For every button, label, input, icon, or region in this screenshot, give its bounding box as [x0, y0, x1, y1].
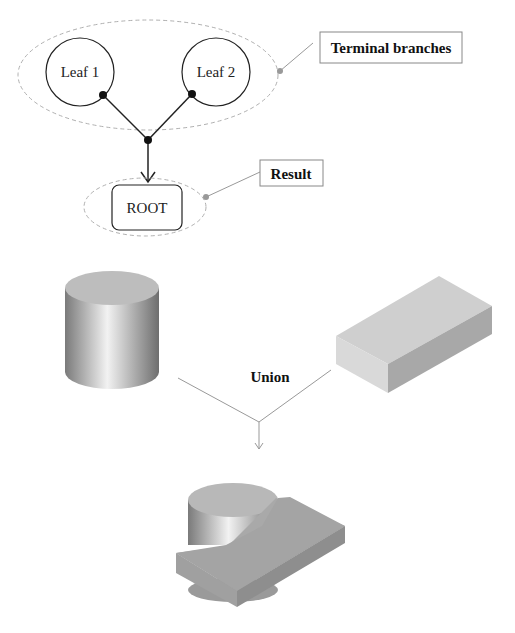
- result-callout-dot: [203, 194, 209, 200]
- result-callout-line: [206, 172, 260, 197]
- csg-diagram: Leaf 1 Leaf 2 ROOT Terminal branches Res…: [0, 0, 515, 633]
- union-label: Union: [250, 369, 290, 385]
- cylinder-solid: [65, 271, 159, 389]
- terminal-branches-callout: Terminal branches: [320, 32, 462, 63]
- root-label: ROOT: [127, 200, 168, 216]
- leaf-1-connector-dot: [99, 91, 107, 99]
- result-callout: Result: [260, 160, 323, 186]
- root-node[interactable]: ROOT: [112, 185, 182, 230]
- union-result-solid: [176, 483, 345, 607]
- junction-dot: [144, 136, 152, 144]
- box-solid: [336, 276, 492, 393]
- terminal-branches-label: Terminal branches: [331, 40, 452, 56]
- leaf-1-label: Leaf 1: [61, 64, 100, 80]
- terminal-callout-dot: [277, 68, 283, 74]
- leaf-2-label: Leaf 2: [197, 64, 236, 80]
- terminal-callout-line: [280, 43, 313, 71]
- result-label: Result: [271, 166, 312, 182]
- leaf-2-connector-dot: [188, 90, 196, 98]
